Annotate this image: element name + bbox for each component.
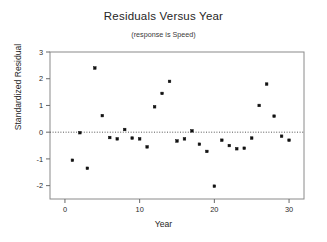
data-point (273, 115, 276, 118)
data-point (228, 144, 231, 147)
svg-text:-2: -2 (36, 181, 43, 190)
data-point (250, 137, 253, 140)
data-point (123, 128, 126, 131)
data-point (265, 83, 268, 86)
data-point (101, 114, 104, 117)
data-points (71, 67, 290, 188)
data-point (198, 143, 201, 146)
data-point (235, 147, 238, 150)
residual-plot-figure: Residuals Versus Year (response is Speed… (0, 0, 327, 242)
data-point (79, 131, 82, 134)
data-point (116, 138, 119, 141)
data-point (280, 135, 283, 138)
svg-text:3: 3 (39, 48, 43, 57)
svg-text:1: 1 (39, 101, 43, 110)
data-point (221, 139, 224, 142)
x-axis-ticks: 0102030 (63, 199, 293, 214)
plot-area: -2-10123 0102030 (0, 0, 327, 242)
data-point (168, 80, 171, 83)
data-point (138, 138, 141, 141)
data-point (176, 140, 179, 143)
data-point (146, 146, 149, 149)
svg-text:20: 20 (210, 205, 218, 214)
data-point (183, 138, 186, 141)
data-point (71, 159, 74, 162)
data-point (161, 92, 164, 95)
data-point (191, 130, 194, 133)
data-point (258, 104, 261, 107)
svg-text:-1: -1 (36, 155, 43, 164)
data-point (153, 105, 156, 108)
data-point (213, 185, 216, 188)
data-point (86, 167, 89, 170)
svg-text:30: 30 (285, 205, 293, 214)
data-point (131, 137, 134, 140)
data-point (108, 136, 111, 139)
svg-text:2: 2 (39, 74, 43, 83)
svg-text:0: 0 (63, 205, 67, 214)
svg-text:0: 0 (39, 128, 43, 137)
data-point (243, 147, 246, 150)
y-axis-ticks: -2-10123 (36, 48, 50, 191)
data-point (94, 67, 97, 70)
plot-frame (50, 52, 304, 199)
svg-text:10: 10 (136, 205, 144, 214)
data-point (206, 150, 209, 153)
data-point (288, 139, 291, 142)
